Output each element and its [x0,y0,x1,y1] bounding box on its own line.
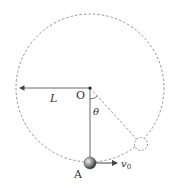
pendulum-diagram: O L θ A v0 [0,0,175,187]
angle-label: θ [93,106,99,117]
ball-a [84,157,96,169]
velocity-label: v0 [121,158,131,171]
displaced-ball [135,138,148,151]
length-label: L [49,92,57,105]
ball-label: A [73,168,83,181]
angle-arc [90,96,97,99]
velocity-subscript: 0 [127,163,131,171]
pivot-point [88,86,91,89]
pivot-label: O [76,89,85,102]
